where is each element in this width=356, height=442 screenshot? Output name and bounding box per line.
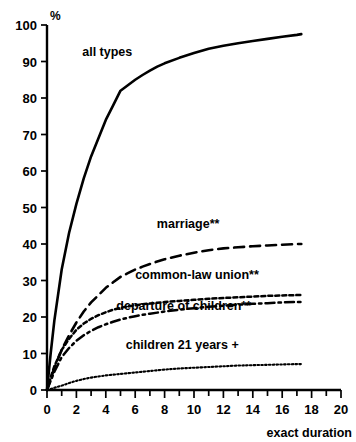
y-axis-ticks: 0102030405060708090100: [15, 18, 47, 398]
x-tick-label: 4: [102, 402, 110, 417]
x-axis-ticks: 02468101214161820: [43, 390, 348, 417]
y-tick-label: 30: [23, 274, 37, 289]
axes: [47, 25, 341, 390]
y-axis-unit-label: %: [50, 9, 61, 23]
y-tick-label: 10: [23, 347, 37, 362]
x-tick-label: 20: [334, 402, 348, 417]
x-tick-label: 16: [275, 402, 289, 417]
x-tick-label: 10: [187, 402, 201, 417]
x-tick-label: 18: [304, 402, 318, 417]
y-tick-label: 60: [23, 164, 37, 179]
y-tick-label: 80: [23, 91, 37, 106]
series-line-0: [47, 34, 301, 390]
x-tick-label: 6: [132, 402, 139, 417]
series-label-0: all types: [82, 45, 132, 59]
x-axis-title: exact duration: [267, 426, 352, 440]
x-tick-label: 0: [43, 402, 50, 417]
x-tick-label: 12: [216, 402, 230, 417]
series-line-4: [47, 364, 301, 390]
series-label-3: departure of children**: [116, 299, 251, 313]
line-chart-svg: % 0102030405060708090100 024681012141618…: [0, 0, 356, 442]
series-curves: [47, 34, 301, 390]
x-tick-label: 8: [161, 402, 168, 417]
series-label-4: children 21 years +: [126, 338, 239, 352]
x-tick-label: 2: [73, 402, 80, 417]
y-tick-label: 100: [15, 18, 37, 33]
series-label-2: common-law union**: [135, 268, 259, 282]
y-tick-label: 90: [23, 55, 37, 70]
y-tick-label: 20: [23, 310, 37, 325]
chart-container: % 0102030405060708090100 024681012141618…: [0, 0, 356, 442]
series-annotations: all typesmarriage**common-law union**dep…: [82, 45, 259, 352]
y-tick-label: 0: [30, 383, 37, 398]
y-tick-label: 70: [23, 128, 37, 143]
x-tick-label: 14: [246, 402, 261, 417]
y-tick-label: 50: [23, 201, 37, 216]
y-tick-label: 40: [23, 237, 37, 252]
series-label-1: marriage**: [157, 217, 220, 231]
